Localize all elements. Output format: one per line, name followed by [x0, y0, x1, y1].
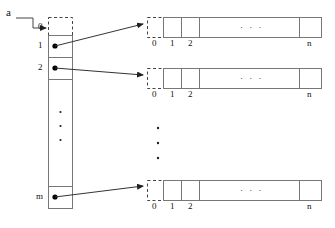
column-cell-0-dashed	[49, 18, 73, 36]
row-2-index-label-0: 0	[152, 90, 157, 99]
row-m-index-label-n: n	[307, 202, 312, 211]
row-1-ellipsis: · · ·	[240, 23, 264, 32]
row-1-index-label-1: 1	[170, 39, 175, 48]
row-array-2	[148, 69, 322, 89]
column-ellipsis-dot	[59, 139, 61, 141]
row-2-index-label-1: 1	[170, 90, 175, 99]
column-cell-m	[49, 187, 73, 209]
column-ellipsis-dot	[59, 111, 61, 113]
row-1-index-label-n: n	[307, 39, 312, 48]
row-array-1	[148, 18, 322, 38]
row-1-index-label-0: 0	[152, 39, 157, 48]
row-2-index-label-n: n	[307, 90, 312, 99]
row-m-index-label-0: 0	[152, 202, 157, 211]
row-1-dashed-head	[148, 18, 164, 38]
column-ellipsis-dot	[59, 125, 61, 127]
row-m-ellipsis: · · ·	[240, 186, 264, 195]
rows-ellipsis-dot	[157, 157, 159, 159]
column-cell-1	[49, 36, 73, 58]
diagram-canvas: a 0 1 2 m 0 1 2 n · · · 0 1 2 n · · · 0 …	[0, 0, 335, 228]
row-2-ellipsis: · · ·	[240, 74, 264, 83]
column-cell-middle	[49, 80, 73, 187]
diagram-vector-layer	[0, 0, 335, 228]
row-m-dashed-head	[148, 181, 164, 201]
row-2-dashed-head	[148, 69, 164, 89]
column-index-label-2: 2	[38, 63, 43, 72]
rows-ellipsis-dot	[157, 127, 159, 129]
row-m-index-label-2: 2	[188, 202, 193, 211]
row-m-index-label-1: 1	[170, 202, 175, 211]
row-2-index-label-2: 2	[188, 90, 193, 99]
pointer-label-a: a	[6, 8, 11, 17]
column-index-label-1: 1	[38, 41, 43, 50]
row-array-m	[148, 181, 322, 201]
column-index-label-0: 0	[38, 22, 43, 31]
row-1-index-label-2: 2	[188, 39, 193, 48]
rows-ellipsis-dot	[157, 142, 159, 144]
column-index-label-m: m	[36, 192, 43, 201]
